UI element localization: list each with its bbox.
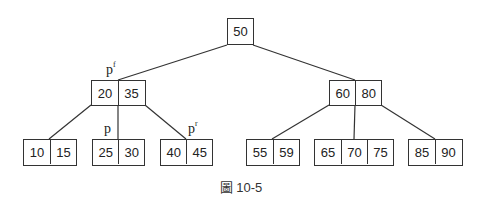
key-cell: 59	[273, 140, 299, 164]
edge-root-left	[118, 45, 227, 80]
leaf-node-65-70-75: 65 70 75	[314, 139, 394, 166]
key-cell: 65	[315, 140, 341, 164]
edge-20-35-to-10-15	[49, 105, 91, 139]
key-cell: 25	[93, 140, 118, 164]
key-cell: 55	[247, 140, 273, 164]
leaf-node-40-45: 40 45	[160, 139, 213, 166]
key-cell: 50	[228, 19, 253, 44]
pointer-label-pf: pf	[106, 62, 116, 78]
key-cell: 90	[435, 140, 461, 164]
key-cell: 75	[367, 140, 393, 164]
key-cell: 60	[330, 81, 355, 105]
edge-20-35-to-40-45	[145, 105, 186, 139]
key-cell: 30	[118, 140, 144, 164]
root-node: 50	[227, 18, 254, 45]
key-cell: 70	[341, 140, 367, 164]
internal-node-60-80: 60 80	[329, 80, 382, 106]
key-cell: 40	[161, 140, 186, 164]
leaf-node-55-59: 55 59	[246, 139, 300, 166]
internal-node-20-35: 20 35	[91, 80, 146, 106]
leaf-node-85-90: 85 90	[408, 139, 463, 166]
leaf-node-10-15: 10 15	[23, 139, 77, 166]
edge-60-80-to-85-90	[381, 105, 435, 139]
pointer-label-p: p	[104, 121, 111, 137]
edge-root-right	[253, 45, 355, 80]
leaf-node-25-30: 25 30	[92, 139, 145, 166]
edge-60-80-to-55-59	[272, 105, 329, 139]
pointer-label-pr: pr	[188, 121, 198, 137]
key-cell: 20	[92, 81, 118, 105]
figure-caption: 圖 10-5	[0, 177, 482, 196]
key-cell: 35	[118, 81, 144, 105]
key-cell: 85	[409, 140, 435, 164]
key-cell: 10	[24, 140, 50, 164]
edge-60-80-to-65-70-75	[354, 105, 355, 139]
key-cell: 45	[186, 140, 212, 164]
key-cell: 15	[50, 140, 76, 164]
key-cell: 80	[355, 81, 381, 105]
